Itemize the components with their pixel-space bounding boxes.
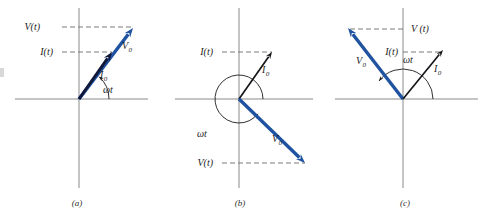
current-phasor-label-subscript: 0 xyxy=(266,70,270,78)
panel-caption-b: (b) xyxy=(235,198,246,208)
omega-t-arc-label: ωt xyxy=(197,128,207,139)
voltage-phasor-label: V0 xyxy=(272,133,283,147)
voltage-phasor xyxy=(353,34,403,99)
voltage-projection-label: V(t) xyxy=(197,157,213,169)
current-projection-label: I(t) xyxy=(384,46,398,58)
current-phasor-label: I0 xyxy=(433,63,442,77)
phasor-diagram-canvas: ωtV(t)I(t)V0I0(a)ωtI(t)V(t)I0V0(b)ωtV (t… xyxy=(0,0,490,223)
panel-caption-c: (c) xyxy=(400,198,410,208)
panel-c: ωtV (t)I(t)V0I0(c) xyxy=(335,8,478,208)
voltage-projection-label: V(t) xyxy=(24,21,40,33)
current-projection-label: I(t) xyxy=(199,46,213,58)
current-phasor-label-subscript: 0 xyxy=(438,69,442,77)
voltage-projection-label: V (t) xyxy=(411,23,430,35)
margin-artifact xyxy=(0,68,4,77)
current-phasor-label: I0 xyxy=(261,64,270,78)
phasor-diagram-figure: ωtV(t)I(t)V0I0(a)ωtI(t)V(t)I0V0(b)ωtV (t… xyxy=(0,0,490,223)
current-phasor-label-subscript: 0 xyxy=(104,75,108,83)
voltage-phasor-label-subscript: 0 xyxy=(363,61,367,69)
current-phasor-label: I0 xyxy=(99,69,108,83)
panel-b: ωtI(t)V(t)I0V0(b) xyxy=(175,8,313,208)
current-projection-label: I(t) xyxy=(39,46,53,58)
panel-a: ωtV(t)I(t)V0I0(a) xyxy=(15,8,148,208)
omega-t-arc-label: ωt xyxy=(403,54,413,65)
voltage-phasor-label: V0 xyxy=(356,55,367,69)
voltage-phasor xyxy=(239,99,299,158)
omega-t-arc-label: ωt xyxy=(103,84,113,95)
voltage-phasor-label: V0 xyxy=(122,40,133,54)
panel-caption-a: (a) xyxy=(72,198,83,208)
voltage-phasor-label-subscript: 0 xyxy=(129,46,133,54)
voltage-phasor-label-subscript: 0 xyxy=(279,139,283,147)
